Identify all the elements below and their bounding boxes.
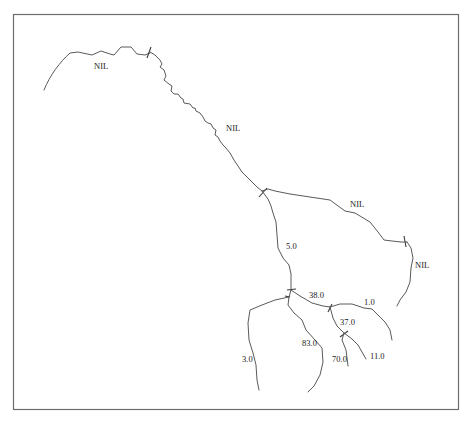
river-segment-nil-descent bbox=[150, 52, 262, 191]
label-38-0: 38.0 bbox=[309, 290, 324, 300]
label-nil-upper-left: NIL bbox=[94, 61, 108, 71]
river-segment-11-0 bbox=[344, 333, 366, 359]
label-nil-right: NIL bbox=[350, 199, 364, 209]
river-segment-3-0 bbox=[248, 297, 289, 390]
river-segment-nil-right bbox=[262, 189, 407, 242]
label-nil-descent: NIL bbox=[226, 123, 240, 133]
label-3-0: 3.0 bbox=[242, 354, 253, 364]
river-network-diagram: NIL NIL NIL NIL 5.0 38.0 1.0 37.0 83.0 7… bbox=[0, 0, 469, 422]
label-1-0: 1.0 bbox=[364, 297, 375, 307]
diagram-frame bbox=[14, 15, 459, 410]
label-37-0: 37.0 bbox=[340, 317, 355, 327]
label-nil-far-right: NIL bbox=[415, 260, 429, 270]
label-83-0: 83.0 bbox=[302, 338, 317, 348]
river-segment-nil-far-right bbox=[397, 242, 413, 306]
label-5-0: 5.0 bbox=[286, 241, 297, 251]
label-70-0: 70.0 bbox=[332, 354, 347, 364]
river-segment-junction bbox=[289, 290, 291, 297]
label-11-0: 11.0 bbox=[370, 351, 385, 361]
